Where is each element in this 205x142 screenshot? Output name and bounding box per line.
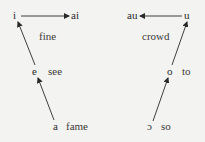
vowel-e: e — [32, 66, 37, 77]
word-fine: fine — [39, 31, 56, 42]
vowel-open-o: ɔ — [147, 121, 152, 132]
word-so: so — [161, 121, 171, 132]
vowel-o: o — [167, 66, 173, 77]
word-fame: fame — [66, 121, 88, 132]
word-crowd: crowd — [142, 31, 170, 42]
vowel-u: u — [184, 10, 190, 21]
arrow-a-to-e — [38, 78, 54, 120]
shift-arrows — [0, 0, 205, 142]
arrow-o-to-u — [172, 22, 187, 65]
vowel-i: i — [13, 10, 16, 21]
word-see: see — [48, 66, 62, 77]
arrow-e-to-i — [18, 22, 35, 65]
vowel-au: au — [127, 10, 137, 21]
arrow-open-o-to-o — [153, 78, 168, 121]
vowel-a: a — [53, 121, 58, 132]
vowel-ai: ai — [71, 10, 79, 21]
word-to: to — [182, 66, 191, 77]
